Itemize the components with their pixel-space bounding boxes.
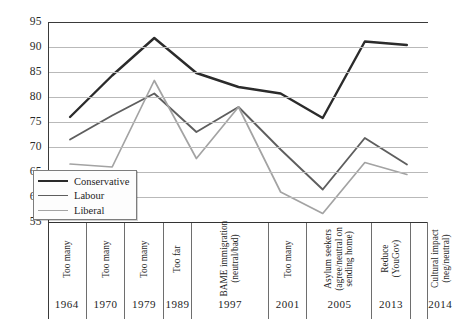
gridline: [49, 22, 428, 23]
x-year-label: 2001: [276, 295, 300, 310]
gridline: [49, 147, 428, 148]
x-category-label: Too many: [62, 240, 73, 278]
x-category-label: Asylum seekers(agree/neutral onsending h…: [323, 227, 355, 291]
x-year-label: 2005: [327, 295, 351, 310]
x-category-label-line: (agree/neutral on: [334, 227, 345, 291]
x-category-label-line: Too many: [139, 240, 149, 278]
legend: ConservativeLabourLiberal: [33, 170, 137, 220]
legend-item-liberal[interactable]: Liberal: [38, 203, 132, 218]
gridline: [49, 47, 428, 48]
x-category-label-wrap: Asylum seekers(agree/neutral onsending h…: [307, 223, 371, 295]
x-year-label: 1964: [55, 295, 79, 310]
x-category-label: Too many: [100, 240, 111, 278]
legend-item-label: Labour: [74, 190, 104, 201]
x-category-label-wrap: Too many: [87, 223, 125, 295]
x-category-label-wrap: Too far: [164, 223, 191, 295]
legend-item-label: Conservative: [74, 176, 129, 187]
x-axis-column: Too many1979: [124, 223, 163, 319]
x-axis: Too many1964Too many1970Too many1979Too …: [48, 222, 427, 319]
legend-swatch-icon: [38, 195, 68, 196]
x-axis-column: Asylum seekers(agree/neutral onsending h…: [306, 223, 371, 319]
x-year-label: 1997: [218, 295, 242, 310]
x-category-label-wrap: Too many: [269, 223, 307, 295]
x-category-label-line: Too many: [282, 240, 292, 278]
x-category-label-wrap: Too many: [125, 223, 163, 295]
y-tick-label: 70: [18, 141, 42, 153]
x-category-label-line: Cultural impact: [430, 230, 440, 289]
x-category-label-line: (YouGov): [391, 240, 402, 278]
x-category-label: Too many: [139, 240, 150, 278]
x-category-label-line: sending home): [345, 227, 356, 291]
x-axis-column: Reduce(YouGov)2013: [371, 223, 410, 319]
x-category-label-line: (neg/neutral): [440, 230, 451, 289]
x-category-label-line: Asylum seekers: [323, 229, 333, 289]
x-year-label: 1970: [93, 295, 117, 310]
gridline: [49, 97, 428, 98]
legend-swatch-icon: [38, 180, 68, 182]
y-tick-label: 95: [18, 16, 42, 28]
gridline: [49, 72, 428, 73]
x-category-label: BAME immigration(neutral/bad): [219, 221, 240, 297]
x-category-label-line: (neutral/bad): [230, 221, 241, 297]
x-category-label-wrap: Cultural impact(neg/neutral): [411, 223, 457, 295]
x-axis-column: Too many2001: [268, 223, 307, 319]
x-category-label-line: BAME immigration: [219, 221, 229, 297]
x-axis-column: Cultural impact(neg/neutral)2014: [410, 223, 457, 319]
x-category-label: Too many: [282, 240, 293, 278]
legend-item-labour[interactable]: Labour: [38, 189, 132, 204]
y-tick-label: 90: [18, 41, 42, 53]
x-category-label-line: Too many: [100, 240, 110, 278]
x-category-label-line: Reduce: [380, 245, 390, 273]
y-tick-label: 85: [18, 66, 42, 78]
x-axis-column: Too many1964: [48, 223, 86, 319]
x-category-label-wrap: Reduce(YouGov): [372, 223, 410, 295]
y-axis: 959085807570656055: [14, 0, 42, 335]
x-category-label: Too far: [172, 245, 183, 272]
x-category-label-line: Too many: [62, 240, 72, 278]
x-category-label-wrap: BAME immigration(neutral/bad): [192, 223, 268, 295]
x-category-label-wrap: Too many: [48, 223, 86, 295]
x-category-label-line: Too far: [172, 245, 182, 272]
x-band-right-edge: [427, 222, 428, 319]
x-year-label: 2014: [428, 295, 452, 310]
series-line-conservative: [70, 38, 407, 118]
y-tick-label: 75: [18, 116, 42, 128]
x-year-label: 2013: [379, 295, 403, 310]
x-category-label: Cultural impact(neg/neutral): [430, 230, 451, 289]
y-tick-label: 80: [18, 91, 42, 103]
x-axis-column: BAME immigration(neutral/bad)1997: [191, 223, 268, 319]
x-category-label: Reduce(YouGov): [380, 240, 401, 278]
legend-swatch-icon: [38, 210, 68, 211]
legend-item-conservative[interactable]: Conservative: [38, 174, 132, 189]
x-year-label: 1979: [132, 295, 156, 310]
gridline: [49, 122, 428, 123]
x-axis-column: Too far1989: [163, 223, 191, 319]
x-year-label: 1989: [165, 295, 189, 310]
x-axis-column: Too many1970: [86, 223, 125, 319]
legend-item-label: Liberal: [74, 205, 104, 216]
